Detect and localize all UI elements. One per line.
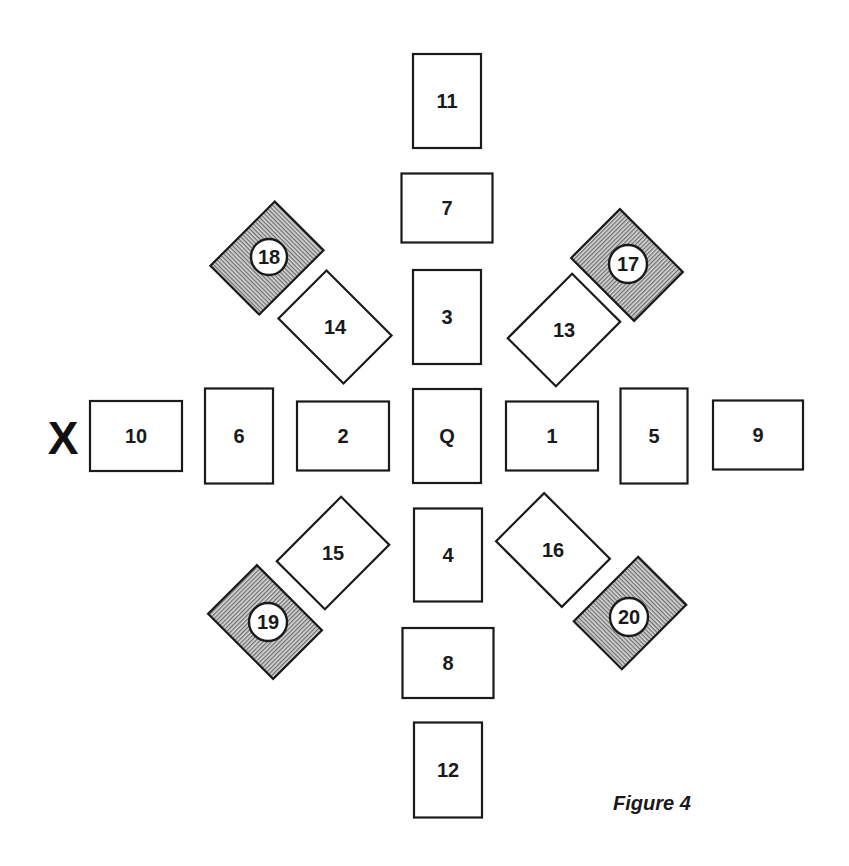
card-number-badge: 17 [609, 245, 647, 283]
card-label: 1 [546, 425, 557, 447]
card-label: 19 [257, 611, 279, 633]
card-label: 18 [258, 246, 280, 268]
card-number-badge: 20 [610, 598, 648, 636]
marker-x-label: X [48, 412, 79, 464]
card-number-badge: 18 [251, 239, 287, 275]
card-label: 9 [752, 424, 763, 446]
card-label: 4 [442, 544, 454, 566]
cards-layer: 1173Q481210621591413151618171920 [90, 54, 803, 818]
card-label: 10 [125, 425, 147, 447]
card-label: 2 [337, 425, 348, 447]
card-label: 15 [322, 542, 344, 564]
card-label: 7 [441, 197, 452, 219]
card-label: 14 [324, 316, 347, 338]
card-label: 5 [648, 425, 659, 447]
card-label: 12 [437, 759, 459, 781]
card-label: 3 [441, 306, 452, 328]
card-label: 13 [553, 319, 575, 341]
card-label: 11 [436, 90, 457, 112]
card-number-badge: 19 [249, 603, 287, 641]
card-label: 16 [542, 539, 564, 561]
card-label: 20 [618, 606, 640, 628]
card-label: 6 [233, 425, 244, 447]
card-label: 8 [442, 652, 453, 674]
card-label: Q [439, 425, 455, 447]
card-label: 17 [617, 253, 639, 275]
figure-caption: Figure 4 [613, 792, 691, 814]
card-layout-diagram: 1173Q481210621591413151618171920 X Figur… [0, 0, 849, 866]
